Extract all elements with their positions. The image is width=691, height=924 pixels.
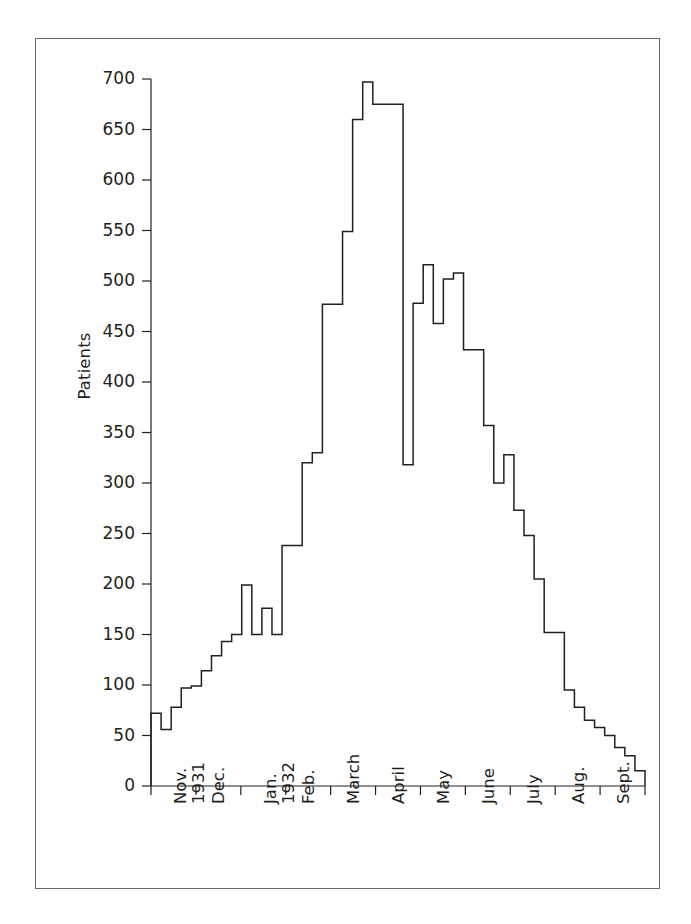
x-tick-label: May: [435, 770, 453, 804]
x-tick-label: Feb.: [300, 770, 318, 804]
y-tick-label: 600: [71, 169, 135, 189]
y-axis-ticks: [142, 79, 151, 786]
x-tick-label: July: [525, 774, 543, 804]
y-tick-label: 200: [71, 573, 135, 593]
y-tick-label: 300: [71, 472, 135, 492]
x-tick-label: April: [390, 766, 408, 804]
x-tick-label: June: [480, 768, 498, 804]
y-tick-label: 0: [71, 775, 135, 795]
x-tick-label: Nov.1931: [172, 762, 208, 804]
x-tick-label: March: [345, 754, 363, 804]
y-tick-label: 450: [71, 321, 135, 341]
x-tick-label: Aug.: [570, 767, 588, 804]
y-tick-label: 650: [71, 119, 135, 139]
y-tick-label: 700: [71, 68, 135, 88]
x-tick-label: Jan.1932: [262, 762, 298, 804]
figure-container: Patients 0501001502002503003504004505005…: [0, 0, 691, 924]
y-tick-label: 400: [71, 371, 135, 391]
y-tick-label: 50: [71, 725, 135, 745]
x-tick-label: Sept.: [615, 761, 633, 804]
y-tick-label: 100: [71, 674, 135, 694]
x-tick-label: Dec.: [210, 767, 228, 804]
y-tick-label: 550: [71, 220, 135, 240]
patients-step-line: [151, 82, 645, 786]
y-tick-label: 500: [71, 270, 135, 290]
y-tick-label: 150: [71, 624, 135, 644]
y-tick-label: 350: [71, 422, 135, 442]
y-tick-label: 250: [71, 523, 135, 543]
